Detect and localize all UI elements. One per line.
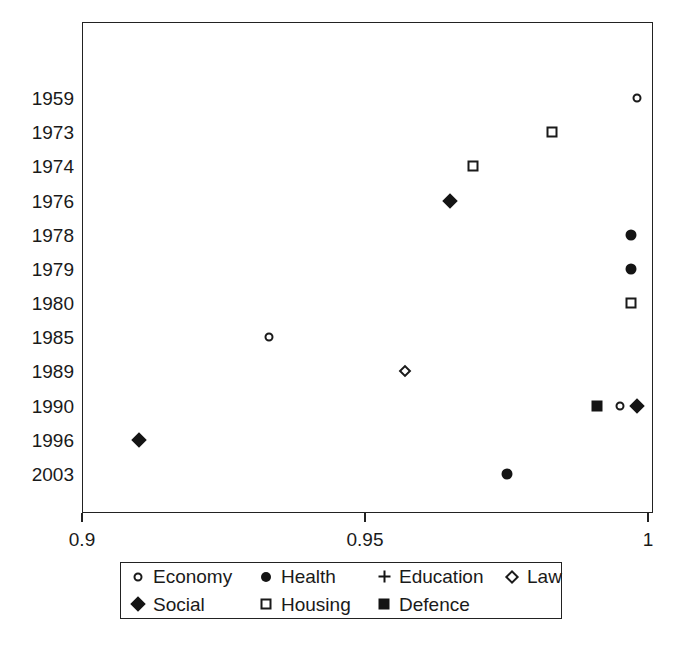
- data-point-social-1990: [629, 398, 645, 414]
- scatter-chart: 1959197319741976197819791980198519891990…: [0, 0, 679, 657]
- plot-data-area: [82, 22, 653, 513]
- legend-entry-housing[interactable]: Housing: [259, 595, 377, 614]
- legend-label: Housing: [281, 595, 351, 614]
- filled-circle-icon: [259, 570, 273, 584]
- plus-icon: [377, 570, 391, 584]
- data-point-law-1989: [398, 365, 411, 378]
- x-axis-tick-mark-0.95: [364, 513, 366, 522]
- legend-marker: [261, 572, 271, 582]
- data-point-housing-1974: [467, 161, 478, 172]
- open-square-icon: [259, 597, 273, 611]
- x-axis-tick-label-0.95: 0.95: [347, 530, 384, 549]
- x-axis-tick-mark-1: [647, 513, 649, 522]
- legend-label: Law: [527, 567, 562, 586]
- data-point-social-1976: [442, 193, 458, 209]
- legend-marker: [379, 599, 390, 610]
- data-point-economy-1959: [632, 94, 641, 103]
- data-point-health-1979: [626, 263, 637, 274]
- legend-label: Health: [281, 567, 336, 586]
- legend-entry-economy[interactable]: Economy: [131, 567, 259, 586]
- chart-legend: EconomyHealthEducationLawSocialHousingDe…: [120, 562, 562, 619]
- legend-label: Defence: [399, 595, 470, 614]
- data-point-housing-1980: [626, 298, 637, 309]
- x-axis-tick-label-1: 1: [643, 530, 654, 549]
- legend-entry-health[interactable]: Health: [259, 567, 377, 586]
- x-axis-tick-label-0.9: 0.9: [69, 530, 95, 549]
- legend-entry-defence[interactable]: Defence: [377, 595, 505, 614]
- legend-marker: [505, 570, 519, 584]
- legend-entry-social[interactable]: Social: [131, 595, 259, 614]
- legend-marker: [134, 572, 143, 581]
- legend-entry-education[interactable]: Education: [377, 567, 505, 586]
- data-point-economy-1990: [615, 401, 624, 410]
- legend-label: Education: [399, 567, 484, 586]
- open-circle-icon: [131, 570, 145, 584]
- legend-entries: EconomyHealthEducationLawSocialHousingDe…: [121, 563, 561, 618]
- data-point-health-2003: [501, 469, 512, 480]
- open-diamond-icon: [505, 570, 519, 584]
- legend-marker: [261, 599, 272, 610]
- data-point-economy-1985: [264, 333, 273, 342]
- filled-diamond-icon: [131, 597, 145, 611]
- legend-label: Economy: [153, 567, 232, 586]
- data-point-social-1996: [131, 432, 147, 448]
- data-point-housing-1973: [546, 127, 557, 138]
- data-point-defence-1990: [592, 400, 603, 411]
- legend-entry-law[interactable]: Law: [505, 567, 573, 586]
- data-point-health-1978: [626, 229, 637, 240]
- x-axis-tick-mark-0.9: [81, 513, 83, 522]
- legend-label: Social: [153, 595, 205, 614]
- filled-square-icon: [377, 597, 391, 611]
- legend-marker: [130, 596, 146, 612]
